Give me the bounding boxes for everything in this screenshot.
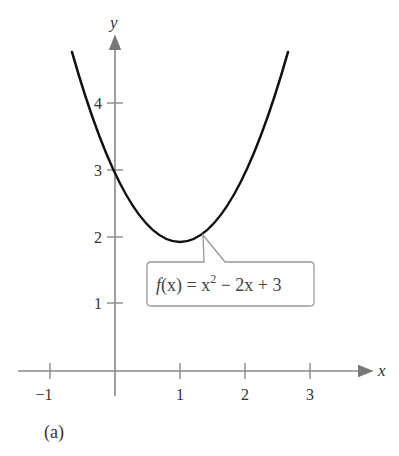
- x-tick-label: 2: [241, 386, 249, 403]
- y-axis-label: y: [108, 13, 118, 32]
- graph-figure: −1 1 2 3 1 2 3 4 x y f(x) = x2 − 2x + 3 …: [0, 0, 399, 456]
- y-tick-label: 2: [94, 229, 102, 246]
- y-tick-label: 1: [94, 295, 102, 312]
- x-tick-label: 1: [176, 386, 184, 403]
- x-tick-label: 3: [306, 386, 314, 403]
- y-tick-label: 4: [94, 95, 102, 112]
- x-tick-label: −1: [35, 386, 52, 403]
- figure-caption: (a): [44, 422, 64, 443]
- parabola-curve: [72, 52, 288, 242]
- y-tick-label: 3: [94, 162, 102, 179]
- function-callout: f(x) = x2 − 2x + 3: [147, 235, 314, 306]
- x-axis-label: x: [377, 361, 386, 380]
- function-label: f(x) = x2 − 2x + 3: [156, 272, 281, 296]
